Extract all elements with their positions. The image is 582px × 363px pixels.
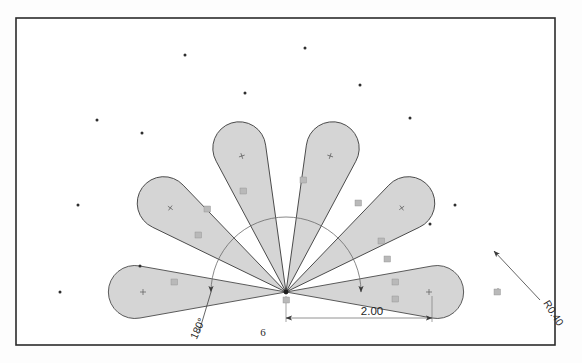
constraint-marker[interactable] [195, 232, 202, 238]
constraint-marker[interactable] [204, 206, 211, 212]
linear-dimension-label: 2.00 [361, 305, 383, 317]
constraint-marker[interactable] [392, 279, 399, 285]
constraint-marker[interactable] [378, 238, 385, 244]
sheet-frame [16, 18, 555, 345]
page-number: 6 [260, 326, 266, 338]
origin-point[interactable] [284, 290, 289, 295]
constraint-marker[interactable] [283, 297, 290, 303]
constraint-marker[interactable] [392, 296, 399, 302]
constraint-marker[interactable] [494, 289, 501, 295]
constraint-marker[interactable] [355, 200, 362, 206]
constraint-marker[interactable] [171, 279, 178, 285]
technical-drawing-canvas: 180° 2.00 R0.40 [0, 0, 582, 363]
drawing-sheet: 180° 2.00 R0.40 [0, 0, 582, 363]
constraint-marker[interactable] [384, 256, 391, 262]
constraint-marker[interactable] [300, 177, 307, 183]
constraint-marker[interactable] [240, 188, 247, 194]
